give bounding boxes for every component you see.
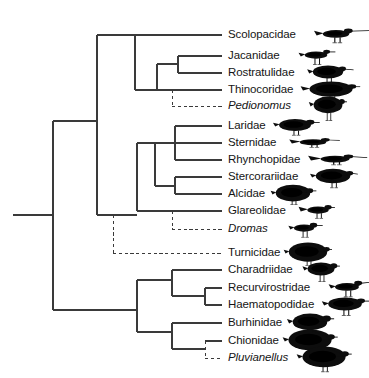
taxon-label-dromas: Dromas [228, 223, 268, 235]
taxon-label-thinocoridae: Thinocoridae [228, 84, 293, 96]
taxon-label-recurvirostridae: Recurvirostridae [228, 282, 310, 294]
taxon-label-charadriidae: Charadriidae [228, 264, 293, 276]
phylogenetic-tree-figure: ScolopacidaeJacanidaeRostratulidaeThinoc… [0, 0, 369, 378]
taxon-label-haematopodidae: Haematopodidae [228, 299, 314, 311]
taxon-label-pluvianellus: Pluvianellus [228, 352, 288, 364]
taxon-label-chionidae: Chionidae [228, 335, 279, 347]
taxon-label-jacanidae: Jacanidae [228, 50, 280, 62]
taxon-label-rostratulidae: Rostratulidae [228, 67, 294, 79]
taxon-label-scolopacidae: Scolopacidae [228, 29, 296, 41]
taxon-label-stercorariidae: Stercorariidae [228, 171, 298, 183]
taxon-label-laridae: Laridae [228, 120, 266, 132]
taxon-label-sternidae: Sternidae [228, 137, 276, 149]
cladogram-branches [0, 0, 369, 378]
taxon-label-glareolidae: Glareolidae [228, 205, 286, 217]
taxon-label-pedionomus: Pedionomus [228, 100, 291, 112]
taxon-label-burhinidae: Burhinidae [228, 317, 282, 329]
taxon-label-turnicidae: Turnicidae [228, 247, 280, 259]
taxon-label-alcidae: Alcidae [228, 188, 265, 200]
taxon-label-rhynchopidae: Rhynchopidae [228, 154, 300, 166]
